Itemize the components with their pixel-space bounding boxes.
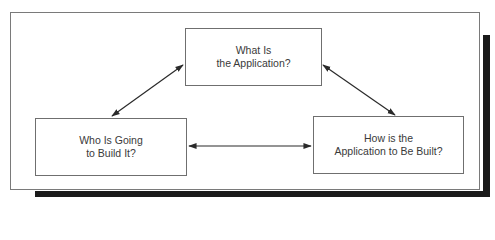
node-label-line: the Application?: [216, 57, 290, 70]
frame-shadow-right: [483, 35, 490, 197]
node-label-line: What Is: [236, 44, 272, 57]
node-label-line: Who Is Going: [79, 134, 143, 147]
node-who-is-going-to-build-it: Who Is Going to Build It?: [35, 118, 187, 176]
node-what-is-the-application: What Is the Application?: [185, 28, 322, 86]
node-how-is-the-application-to-be-built: How is the Application to Be Built?: [313, 116, 464, 174]
node-label-line: to Build It?: [86, 147, 136, 160]
node-label-line: Application to Be Built?: [335, 145, 443, 158]
frame-shadow-bottom: [35, 191, 490, 197]
node-label-line: How is the: [364, 132, 413, 145]
